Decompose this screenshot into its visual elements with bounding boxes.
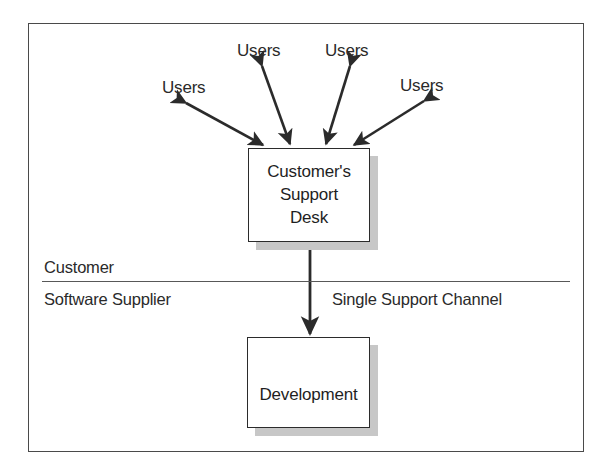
- zone-divider-line: [42, 281, 570, 282]
- support-desk-label: Customer's Support Desk: [248, 160, 370, 229]
- diagram-canvas: Customer's Support Desk Development User…: [0, 0, 607, 469]
- users-label-right: Users: [400, 76, 443, 95]
- single-support-channel-label: Single Support Channel: [332, 290, 502, 309]
- development-label: Development: [247, 383, 370, 406]
- users-label-left: Users: [162, 78, 205, 97]
- zone-label-customer: Customer: [44, 258, 114, 277]
- users-label-top-right: Users: [325, 41, 368, 60]
- zone-label-software-supplier: Software Supplier: [44, 290, 171, 309]
- users-label-top-left: Users: [237, 41, 280, 60]
